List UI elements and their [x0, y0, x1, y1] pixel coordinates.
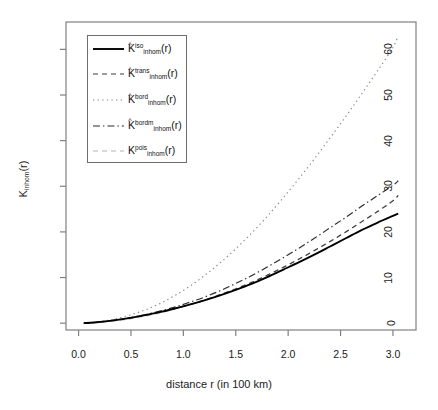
legend-symbol-K: K^	[128, 119, 135, 130]
y-tick-label: 0	[385, 320, 397, 326]
legend-superscript: bord	[135, 93, 148, 100]
legend-argument: (r)	[166, 93, 177, 105]
x-axis-label: distance r (in 100 km)	[0, 378, 438, 390]
legend-argument: (r)	[165, 144, 176, 156]
curve-dashed	[84, 195, 398, 323]
hat-accent: ^	[128, 40, 131, 47]
legend-argument: (r)	[167, 67, 178, 79]
legend-symbol-K: K	[128, 145, 135, 156]
y-tick-label: 30	[382, 180, 394, 192]
y-axis-label-sub: inhom	[23, 172, 30, 191]
y-axis-label-tail: (r)	[17, 161, 29, 172]
legend-label: K^bordinhom(r)	[128, 94, 176, 106]
x-tick-label: 3.0	[386, 348, 401, 360]
legend-item: K^isoinhom(r)	[88, 36, 188, 62]
legend-subscript: inhom	[143, 47, 161, 54]
hat-accent: ^	[128, 117, 131, 124]
legend-subscript: inhom	[149, 73, 167, 80]
y-tick-label: 20	[382, 226, 394, 238]
y-axis-label: Kinhom(r)	[13, 109, 31, 249]
curve-solid	[84, 214, 398, 324]
curve-dashdot	[84, 181, 398, 323]
y-tick-label: 40	[382, 135, 394, 147]
legend-superscript: trans	[135, 68, 149, 75]
legend-subscript: inhom	[153, 124, 171, 131]
legend-label: K^transinhom(r)	[128, 68, 178, 80]
legend-superscript: bordm	[135, 119, 153, 126]
hat-accent: ^	[128, 66, 131, 73]
legend-symbol-K: K^	[128, 43, 135, 54]
legend-label: Kpoisinhom(r)	[128, 145, 175, 157]
legend: K^isoinhom(r)K^transinhom(r)K^bordinhom(…	[87, 35, 187, 163]
legend-subscript: inhom	[147, 150, 165, 157]
legend-superscript: pois	[135, 145, 147, 152]
x-tick-label: 0.0	[71, 348, 86, 360]
x-tick-label: 0.5	[124, 348, 139, 360]
y-tick-label: 10	[382, 272, 394, 284]
k-function-plot	[0, 0, 438, 410]
x-tick-label: 1.5	[228, 348, 243, 360]
x-tick-label: 2.0	[281, 348, 296, 360]
legend-item: K^transinhom(r)	[88, 62, 188, 88]
legend-label: K^bordminhom(r)	[128, 119, 182, 131]
x-tick-label: 1.0	[176, 348, 191, 360]
legend-label: K^isoinhom(r)	[128, 43, 172, 55]
plot-figure: K^isoinhom(r)K^transinhom(r)K^bordinhom(…	[0, 0, 438, 410]
hat-accent: ^	[128, 92, 131, 99]
legend-item: Kpoisinhom(r)	[88, 138, 188, 164]
legend-subscript: inhom	[148, 99, 166, 106]
legend-symbol-K: K^	[128, 68, 135, 79]
y-tick-label: 50	[382, 89, 394, 101]
legend-item: K^bordminhom(r)	[88, 113, 188, 139]
curve-lightdash	[84, 195, 398, 323]
legend-argument: (r)	[171, 118, 182, 130]
legend-symbol-K: K^	[128, 94, 135, 105]
x-tick-label: 2.5	[333, 348, 348, 360]
y-axis-label-base: K	[17, 190, 29, 197]
legend-item: K^bordinhom(r)	[88, 87, 188, 113]
y-tick-label: 60	[382, 44, 394, 56]
legend-argument: (r)	[161, 42, 172, 54]
